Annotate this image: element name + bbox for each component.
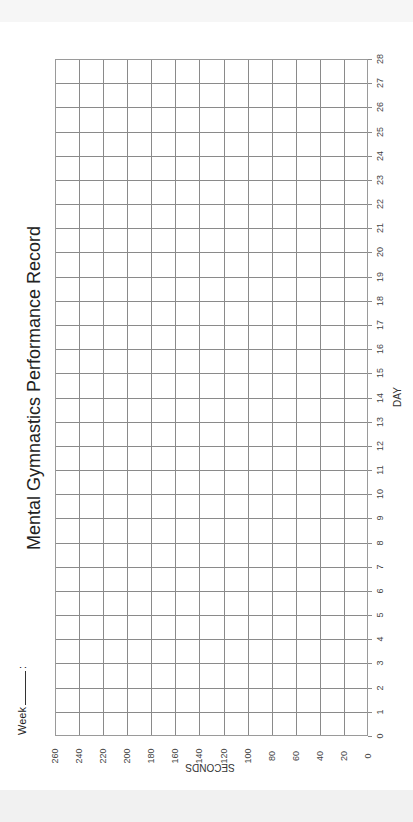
grid-hline [56,518,367,519]
seconds-tick-label: 240 [73,741,85,771]
day-tick-mark [368,543,372,544]
day-tick-label: 19 [374,267,386,287]
grid-hline [56,567,367,568]
day-tick-label: 0 [374,726,386,746]
day-tick-mark [368,712,372,713]
day-tick-label: 11 [374,460,386,480]
week-input-line[interactable] [15,671,26,705]
grid-hline [56,591,367,592]
day-tick-mark [368,663,372,664]
grid-hline [56,132,367,133]
day-tick-mark [368,59,372,60]
grid-hline [56,688,367,689]
seconds-tick-label: 60 [290,741,302,771]
day-tick-mark [368,639,372,640]
day-tick-mark [368,325,372,326]
day-tick-mark [368,615,372,616]
day-tick-mark [368,301,372,302]
day-tick-label: 23 [374,170,386,190]
day-tick-mark [368,567,372,568]
grid-hline [56,398,367,399]
day-tick-mark [368,736,372,737]
grid-hline [56,446,367,447]
day-tick-label: 15 [374,363,386,383]
day-tick-label: 14 [374,388,386,408]
day-tick-label: 28 [374,49,386,69]
day-tick-label: 25 [374,122,386,142]
grid-hline [56,325,367,326]
day-tick-label: 10 [374,484,386,504]
day-tick-label: 3 [374,653,386,673]
grid-hline [56,301,367,302]
day-tick-mark [368,349,372,350]
day-tick-label: 7 [374,557,386,577]
seconds-tick-label: 20 [338,741,350,771]
day-tick-mark [368,83,372,84]
seconds-tick-label: 40 [314,741,326,771]
grid-hline [56,180,367,181]
grid-hline [56,494,367,495]
day-tick-mark [368,252,372,253]
day-tick-mark [368,180,372,181]
day-tick-mark [368,494,372,495]
seconds-tick-label: 80 [266,741,278,771]
day-tick-label: 1 [374,702,386,722]
day-tick-mark [368,277,372,278]
grid-hline [56,228,367,229]
grid-hline [56,639,367,640]
day-tick-mark [368,518,372,519]
day-tick-label: 9 [374,508,386,528]
day-tick-label: 22 [374,194,386,214]
grid-hline [56,83,367,84]
grid-hline [56,663,367,664]
seconds-tick-label: 120 [218,741,230,771]
seconds-tick-label: 100 [242,741,254,771]
page-top-band [0,0,413,22]
day-tick-mark [368,591,372,592]
day-tick-label: 24 [374,146,386,166]
day-axis-label: DAY [391,382,405,412]
day-tick-mark [368,688,372,689]
grid-hline [56,543,367,544]
grid-hline [56,252,367,253]
seconds-tick-label: 200 [121,741,133,771]
day-tick-label: 21 [374,218,386,238]
grid-hline [56,373,367,374]
day-tick-label: 8 [374,533,386,553]
day-tick-label: 17 [374,315,386,335]
day-tick-label: 2 [374,678,386,698]
day-tick-label: 27 [374,73,386,93]
day-tick-mark [368,107,372,108]
seconds-axis-label: SECONDS [180,760,240,774]
day-tick-label: 12 [374,436,386,456]
week-colon: : [16,666,28,669]
seconds-tick-label: 140 [193,741,205,771]
day-tick-mark [368,228,372,229]
seconds-tick-label: 0 [362,741,374,771]
week-label: Week [16,707,28,735]
week-field[interactable]: Week: [15,655,29,735]
page-bottom-band [0,790,413,822]
day-tick-label: 20 [374,242,386,262]
day-tick-label: 5 [374,605,386,625]
chart-grid [55,59,368,736]
seconds-tick-label: 260 [49,741,61,771]
seconds-tick-label: 160 [169,741,181,771]
day-tick-label: 18 [374,291,386,311]
day-tick-mark [368,446,372,447]
grid-hline [56,712,367,713]
day-tick-mark [368,373,372,374]
seconds-tick-label: 220 [97,741,109,771]
seconds-tick-label: 180 [145,741,157,771]
grid-hline [56,156,367,157]
grid-hline [56,277,367,278]
grid-hline [56,615,367,616]
day-tick-label: 13 [374,412,386,432]
grid-hline [56,107,367,108]
day-tick-mark [368,470,372,471]
day-tick-label: 6 [374,581,386,601]
day-tick-mark [368,422,372,423]
day-tick-label: 16 [374,339,386,359]
grid-hline [56,470,367,471]
day-tick-mark [368,156,372,157]
